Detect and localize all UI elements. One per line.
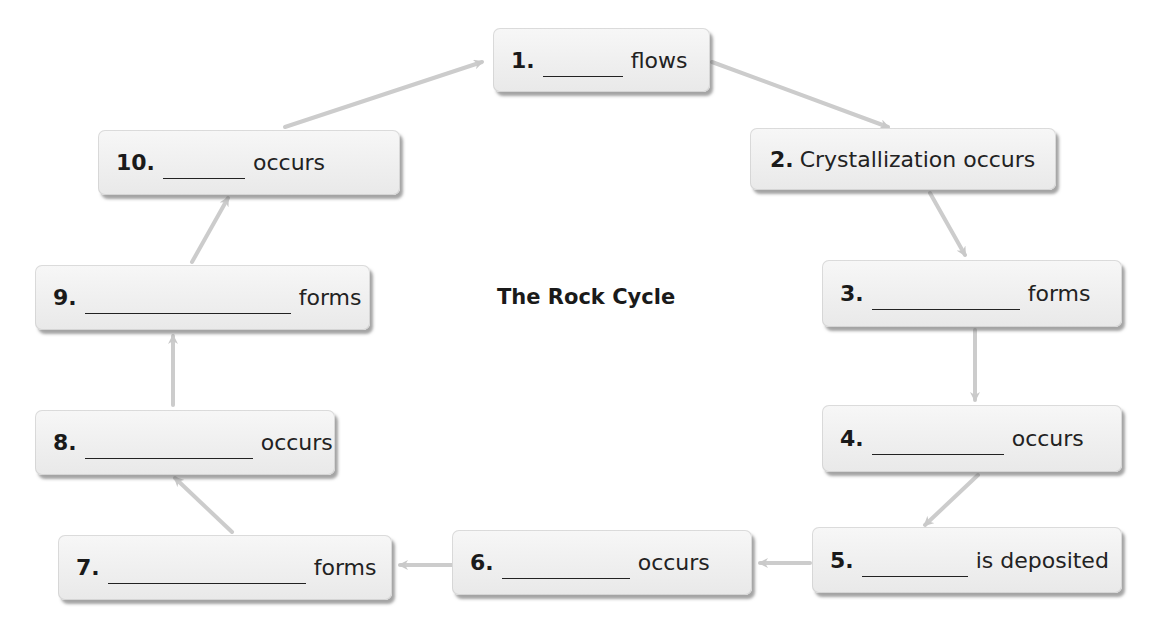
step-box-2: 2. Crystallization occurs xyxy=(750,128,1056,190)
answer-blank[interactable] xyxy=(108,559,306,584)
step-number: 2. xyxy=(770,147,794,172)
step-text: occurs xyxy=(1012,426,1084,451)
step-box-1: 1. flows xyxy=(493,28,710,92)
answer-blank[interactable] xyxy=(872,285,1020,310)
answer-blank[interactable] xyxy=(502,554,630,579)
step-text: forms xyxy=(314,555,377,580)
arrow-7-to-8 xyxy=(175,478,232,532)
arrow-2-to-3 xyxy=(930,193,965,255)
step-number: 3. xyxy=(840,281,864,306)
step-text: is deposited xyxy=(976,548,1109,573)
step-number: 9. xyxy=(53,285,77,310)
step-box-6: 6. occurs xyxy=(452,530,752,595)
answer-blank[interactable] xyxy=(85,289,291,314)
step-box-7: 7. forms xyxy=(58,535,392,600)
arrow-10-to-1 xyxy=(285,62,482,127)
step-number: 4. xyxy=(840,426,864,451)
answer-blank[interactable] xyxy=(85,434,253,459)
arrow-9-to-10 xyxy=(192,198,228,262)
answer-blank[interactable] xyxy=(872,430,1004,455)
step-text: occurs xyxy=(253,150,325,175)
step-box-5: 5. is deposited xyxy=(812,527,1122,593)
step-number: 10. xyxy=(116,150,155,175)
answer-blank[interactable] xyxy=(862,552,968,577)
step-number: 8. xyxy=(53,430,77,455)
step-number: 7. xyxy=(76,555,100,580)
answer-blank[interactable] xyxy=(543,52,623,77)
step-text: forms xyxy=(299,285,362,310)
step-text: Crystallization occurs xyxy=(800,147,1036,172)
step-number: 5. xyxy=(830,548,854,573)
step-box-4: 4. occurs xyxy=(822,405,1122,472)
step-text: occurs xyxy=(638,550,710,575)
step-number: 6. xyxy=(470,550,494,575)
step-box-10: 10. occurs xyxy=(98,130,400,195)
step-box-3: 3. forms xyxy=(822,260,1122,327)
step-number: 1. xyxy=(511,48,535,73)
step-box-9: 9. forms xyxy=(35,265,370,330)
diagram-title: The Rock Cycle xyxy=(497,285,675,309)
step-text: flows xyxy=(631,48,688,73)
step-text: occurs xyxy=(261,430,333,455)
answer-blank[interactable] xyxy=(163,154,245,179)
rock-cycle-diagram: 1. flows 2. Crystallization occurs 3. fo… xyxy=(0,0,1167,635)
step-box-8: 8. occurs xyxy=(35,410,335,475)
step-text: forms xyxy=(1028,281,1091,306)
arrow-1-to-2 xyxy=(712,62,888,127)
arrow-4-to-5 xyxy=(925,475,978,525)
